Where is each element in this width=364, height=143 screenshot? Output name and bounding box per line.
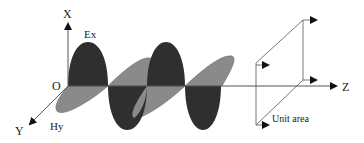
y-axis-label: Y (15, 124, 24, 138)
unit-area (256, 20, 316, 125)
x-axis-label: X (63, 7, 72, 21)
origin-label: O (52, 79, 61, 93)
z-axis-label: Z (342, 80, 349, 94)
em-wave-diagram: X Ex O Y Hy Z Unit area (0, 0, 364, 143)
hy-label: Hy (50, 120, 64, 132)
ex-label: Ex (84, 28, 97, 40)
diagram-svg: X Ex O Y Hy Z Unit area (0, 0, 364, 143)
unit-area-label: Unit area (272, 113, 309, 124)
